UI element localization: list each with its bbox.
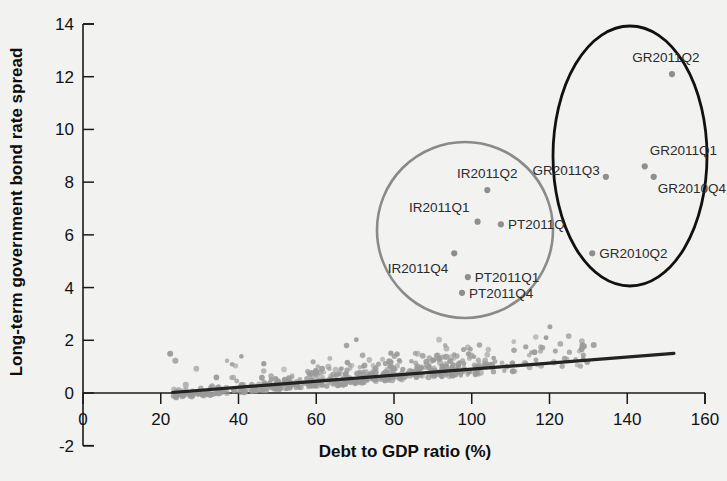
scatter-point bbox=[345, 360, 351, 366]
scatter-point bbox=[340, 382, 346, 388]
scatter-point bbox=[472, 354, 477, 359]
scatter-point bbox=[591, 342, 597, 348]
outlier-point-PT2011Q4 bbox=[459, 290, 465, 296]
scatter-point bbox=[367, 357, 373, 363]
scatter-point bbox=[354, 337, 359, 342]
scatter-point bbox=[229, 375, 234, 380]
scatter-point bbox=[538, 349, 543, 354]
scatter-point bbox=[500, 360, 505, 365]
scatter-point bbox=[225, 359, 230, 364]
scatter-point bbox=[544, 335, 549, 340]
scatter-point bbox=[547, 324, 552, 329]
scatter-point bbox=[167, 351, 173, 357]
scatter-point bbox=[420, 353, 426, 359]
scatter-point bbox=[484, 352, 490, 358]
scatter-point bbox=[439, 374, 444, 379]
outlier-point-PT2011Q1 bbox=[465, 274, 471, 280]
scatter-point bbox=[436, 337, 442, 343]
scatter-point bbox=[578, 363, 583, 368]
outlier-point-IR2011Q1 bbox=[474, 219, 480, 225]
scatter-point bbox=[350, 380, 355, 385]
scatter-point bbox=[409, 359, 414, 364]
scatter-point bbox=[290, 375, 295, 380]
scatter-point bbox=[193, 366, 199, 372]
scatter-point bbox=[397, 359, 402, 364]
outlier-point-IR2011Q4 bbox=[451, 250, 457, 256]
scatter-point bbox=[435, 352, 440, 357]
outlier-label-PT2011Q4: PT2011Q4 bbox=[469, 286, 534, 301]
scatter-point bbox=[327, 356, 332, 361]
x-tick-label: 120 bbox=[535, 410, 563, 429]
scatter-point bbox=[461, 361, 466, 366]
scatter-chart-figure: 020406080100120140160 -202468101214 IR20… bbox=[0, 0, 727, 481]
y-tick-label: 4 bbox=[65, 279, 74, 298]
scatter-point bbox=[557, 341, 563, 347]
scatter-point bbox=[467, 356, 472, 361]
scatter-point bbox=[486, 347, 492, 353]
x-tick-label: 100 bbox=[458, 410, 486, 429]
x-tick-label: 0 bbox=[78, 410, 87, 429]
outlier-label-PT2011Q: PT2011Q bbox=[508, 217, 565, 232]
outlier-point-GR2011Q1 bbox=[642, 163, 648, 169]
scatter-point bbox=[233, 363, 238, 368]
scatter-point bbox=[581, 343, 587, 349]
scatter-point bbox=[456, 364, 461, 369]
scatter-point bbox=[333, 367, 339, 373]
scatter-point bbox=[478, 370, 484, 376]
scatter-point bbox=[350, 363, 355, 368]
x-tick-label: 140 bbox=[613, 410, 641, 429]
scatter-point bbox=[448, 358, 453, 363]
scatter-point bbox=[476, 358, 481, 363]
scatter-point bbox=[383, 378, 388, 383]
y-tick-label: 2 bbox=[65, 331, 74, 350]
scatter-point bbox=[207, 392, 212, 397]
scatter-point bbox=[285, 386, 290, 391]
scatter-point bbox=[393, 367, 398, 372]
scatter-point bbox=[444, 346, 450, 352]
scatter-point bbox=[428, 359, 433, 364]
outlier-point-GR2011Q2 bbox=[669, 71, 675, 77]
scatter-point bbox=[172, 358, 178, 364]
scatter-point bbox=[566, 333, 572, 339]
y-tick-label: 10 bbox=[55, 120, 74, 139]
outlier-point-GR2010Q2 bbox=[589, 250, 595, 256]
scatter-point bbox=[312, 371, 318, 377]
outlier-point-GR2011Q3 bbox=[603, 174, 609, 180]
outlier-label-IR2011Q4: IR2011Q4 bbox=[388, 261, 449, 276]
scatter-point bbox=[477, 342, 483, 348]
x-tick-label: 20 bbox=[151, 410, 170, 429]
scatter-point bbox=[320, 375, 324, 379]
scatter-point bbox=[340, 366, 345, 371]
outlier-point-IR2011Q2 bbox=[484, 187, 490, 193]
scatter-point bbox=[461, 347, 466, 352]
scatter-point bbox=[491, 356, 496, 361]
scatter-point bbox=[361, 370, 366, 375]
scatter-point bbox=[440, 355, 445, 360]
scatter-point bbox=[261, 361, 266, 366]
x-axis-title: Debt to GDP ratio (%) bbox=[319, 442, 492, 461]
scatter-point bbox=[482, 361, 487, 366]
scatter-point bbox=[239, 354, 244, 359]
scatter-point bbox=[335, 382, 341, 388]
scatter-point bbox=[254, 388, 260, 394]
scatter-point bbox=[579, 338, 585, 344]
x-tick-label: 160 bbox=[691, 410, 719, 429]
outlier-label-GR2010Q4: GR2010Q4 bbox=[658, 181, 727, 196]
x-tick-label: 40 bbox=[229, 410, 248, 429]
scatter-point bbox=[344, 367, 349, 372]
y-tick-label: 12 bbox=[55, 68, 74, 87]
y-tick-label: 0 bbox=[65, 384, 74, 403]
outlier-label-IR2011Q2: IR2011Q2 bbox=[457, 166, 518, 181]
outlier-label-IR2011Q1: IR2011Q1 bbox=[409, 200, 470, 215]
scatter-point bbox=[214, 391, 219, 396]
scatter-point bbox=[336, 371, 341, 376]
scatter-point bbox=[523, 344, 528, 349]
outlier-point-GR2010Q4 bbox=[651, 174, 657, 180]
scatter-point bbox=[512, 369, 517, 374]
scatter-point bbox=[577, 349, 582, 354]
plot-canvas: 020406080100120140160 -202468101214 IR20… bbox=[0, 0, 727, 481]
scatter-point bbox=[358, 365, 362, 369]
scatter-point bbox=[388, 351, 393, 356]
scatter-point bbox=[214, 375, 220, 381]
scatter-point bbox=[466, 351, 471, 356]
